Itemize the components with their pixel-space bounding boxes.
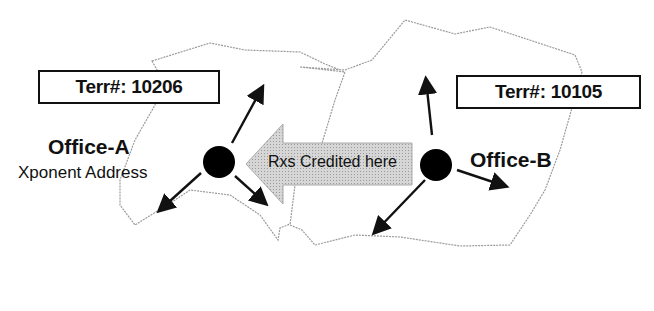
territory-a-label: Terr#: 10206 xyxy=(38,70,220,104)
office-b-name: Office-B xyxy=(470,148,552,172)
office-a-marker xyxy=(203,146,235,178)
office-a-name: Office-A xyxy=(48,135,130,159)
office-a-subtitle: Xponent Address xyxy=(18,163,147,183)
rxs-credited-label: Rxs Credited here xyxy=(268,153,397,171)
territory-b-boundary xyxy=(290,20,582,246)
territory-b-label: Terr#: 10105 xyxy=(456,75,641,109)
office-b-marker xyxy=(420,149,452,181)
